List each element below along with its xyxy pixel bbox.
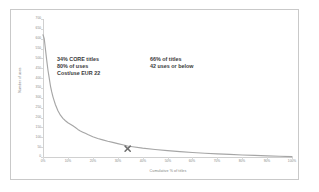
y-axis-tick-mark: [41, 29, 43, 30]
y-axis-tick-mark: [41, 78, 43, 79]
annotation-line: 66% of titles: [150, 56, 193, 63]
chart-canvas: 7006506005505004504003503002502001501005…: [0, 0, 319, 192]
annotation-line: 34% CORE titles: [57, 56, 100, 63]
y-axis-tick-mark: [41, 49, 43, 50]
annotation-line: 42 uses or below: [150, 63, 193, 70]
y-axis-tick-mark: [41, 108, 43, 109]
y-axis-tick-mark: [41, 98, 43, 99]
low-use-titles-annotation: 66% of titles 42 uses or below: [150, 56, 193, 70]
y-axis-tick-mark: [41, 147, 43, 148]
y-axis-tick-mark: [41, 68, 43, 69]
y-axis-tick-mark: [41, 88, 43, 89]
y-axis-tick-mark: [41, 39, 43, 40]
annotation-line: 80% of uses: [57, 63, 100, 70]
marker-x-cross: [125, 146, 130, 151]
y-axis-title: Number of uses: [18, 52, 22, 108]
y-axis-tick-mark: [41, 157, 43, 158]
y-axis-tick-mark: [41, 118, 43, 119]
y-axis-tick-mark: [41, 58, 43, 59]
y-axis-tick-mark: [41, 19, 43, 20]
annotation-line: Cost/use EUR 22: [57, 70, 100, 77]
y-axis-tick-mark: [41, 127, 43, 128]
x-axis-title: Cumulative % of titles: [43, 169, 293, 173]
y-axis-tick-mark: [41, 137, 43, 138]
series-line-uses-per-title: [43, 35, 292, 157]
data-series-layer: [0, 0, 319, 192]
core-titles-annotation: 34% CORE titles 80% of uses Cost/use EUR…: [57, 56, 100, 78]
